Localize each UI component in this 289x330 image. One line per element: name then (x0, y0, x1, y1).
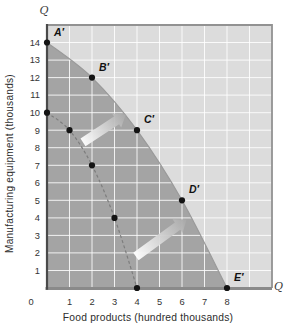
data-point (89, 75, 95, 81)
x-tick-label: 8 (224, 297, 229, 307)
data-point (224, 285, 230, 291)
y-tick-label: 1 (35, 266, 40, 276)
point-label: E′ (234, 271, 244, 283)
y-tick-label: 2 (35, 248, 40, 258)
x-axis-quantity-symbol: Q (274, 281, 283, 293)
point-label: D′ (189, 183, 200, 195)
ppf-chart-svg: A′B′C′D′E′1234567891011121314012345678 (0, 0, 289, 330)
point-label: A′ (53, 26, 65, 38)
y-axis-title: Manufacturing equipment (thousands) (4, 74, 15, 253)
ppf-chart: A′B′C′D′E′1234567891011121314012345678 (0, 0, 289, 330)
x-tick-label: 3 (112, 297, 117, 307)
y-tick-label: 5 (35, 196, 40, 206)
y-tick-label: 14 (30, 38, 40, 48)
data-point (111, 215, 117, 221)
data-point (134, 285, 140, 291)
data-point (44, 39, 50, 45)
x-tick-label: 4 (134, 297, 139, 307)
data-point (134, 127, 140, 133)
y-tick-label: 6 (35, 178, 40, 188)
x-axis-title: Food products (hundred thousands) (47, 312, 249, 323)
y-tick-label: 13 (30, 55, 40, 65)
y-tick-label: 9 (35, 126, 40, 136)
point-label: B′ (99, 61, 110, 73)
data-point (179, 197, 185, 203)
x-tick-label: 1 (67, 297, 72, 307)
data-point (44, 110, 50, 116)
ppf-figure: A′B′C′D′E′1234567891011121314012345678 Q… (0, 0, 289, 330)
x-tick-label: 2 (89, 297, 94, 307)
y-tick-label: 11 (30, 90, 40, 100)
data-point (89, 162, 95, 168)
y-tick-label: 4 (35, 213, 40, 223)
data-point (66, 127, 72, 133)
y-axis-quantity-symbol: Q (37, 5, 51, 17)
x-tick-label: 7 (202, 297, 207, 307)
y-tick-label: 12 (30, 73, 40, 83)
x-tick-label: 0 (28, 297, 33, 307)
y-tick-label: 8 (35, 143, 40, 153)
x-tick-label: 5 (157, 297, 162, 307)
y-tick-label: 3 (35, 231, 40, 241)
y-tick-label: 10 (30, 108, 40, 118)
x-tick-label: 6 (179, 297, 184, 307)
point-label: C′ (144, 113, 155, 125)
y-tick-label: 7 (35, 161, 40, 171)
